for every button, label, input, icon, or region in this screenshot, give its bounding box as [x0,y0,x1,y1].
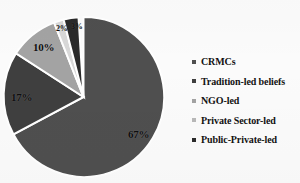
pie-plot-area: 67% 17% 10% 2% 3% [0,0,186,183]
pie-label-crmcs: 67% [128,128,149,140]
chart-legend: CRMCs Tradition-led beliefs NGO-led Priv… [192,52,300,150]
pie-chart-figure: 67% 17% 10% 2% 3% CRMCs Tradition-led be… [0,0,300,183]
pie-label-tradition: 17% [11,91,32,103]
legend-swatch-icon [192,118,196,122]
legend-item-tradition-led-beliefs[interactable]: Tradition-led beliefs [192,72,300,92]
legend-item-ngo-led[interactable]: NGO-led [192,91,300,111]
legend-swatch-icon [192,138,196,142]
legend-swatch-icon [192,99,196,103]
legend-swatch-icon [192,60,196,64]
pie-label-private-sector: 2% [56,24,68,33]
legend-label: NGO-led [201,95,239,106]
legend-label: Public-Private-led [201,134,277,145]
legend-label: Tradition-led beliefs [201,76,285,87]
pie-label-ngo: 10% [33,41,54,53]
legend-item-private-sector-led[interactable]: Private Sector-led [192,111,300,131]
pie-label-public-private: 3% [71,22,83,31]
legend-label: Private Sector-led [201,115,276,126]
legend-item-crmcs[interactable]: CRMCs [192,52,300,72]
legend-label: CRMCs [201,56,236,67]
legend-item-public-private-led[interactable]: Public-Private-led [192,130,300,150]
legend-swatch-icon [192,79,196,83]
